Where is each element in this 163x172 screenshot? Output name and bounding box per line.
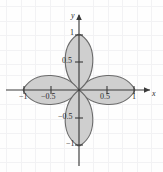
x-tick-label-neg1: −1 (19, 93, 28, 101)
x-axis-label: x (152, 90, 156, 98)
y-tick-label-neg1: −1 (66, 140, 75, 148)
y-tick-label-pos1: 1 (70, 29, 74, 37)
y-axis-label: y (71, 12, 75, 20)
y-tick-label-pos05: 0.5 (62, 57, 72, 65)
x-tick-label-neg05: −0.5 (41, 93, 56, 101)
polar-rose-figure: −1 −0.5 0.5 1 1 0.5 −0.5 −1 x y (0, 0, 163, 172)
y-axis-arrow-icon (76, 14, 82, 20)
plot-canvas (0, 0, 163, 172)
x-tick-label-pos1: 1 (132, 93, 136, 101)
y-tick-label-neg05: −0.5 (58, 113, 73, 121)
x-tick-label-pos05: 0.5 (100, 93, 110, 101)
x-axis-arrow-icon (144, 87, 150, 93)
